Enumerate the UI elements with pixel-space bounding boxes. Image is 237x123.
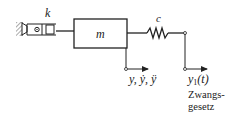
c-label: c — [156, 12, 161, 24]
mass-spring-diagram: k m c y, ẏ, ÿ y1(t) Zwangs- gesetz — [0, 0, 237, 123]
input-motion-label: y1(t) — [187, 72, 209, 87]
mass-label: m — [96, 27, 105, 41]
output-motion-label: y, ẏ, ÿ — [128, 72, 157, 86]
note-line-2: gesetz — [188, 101, 215, 112]
note-line-1: Zwangs- — [188, 89, 225, 100]
spring-c-icon — [147, 28, 168, 38]
fixed-wall-icon — [16, 22, 22, 36]
k-label: k — [45, 6, 51, 20]
k-element-icon — [22, 23, 56, 35]
